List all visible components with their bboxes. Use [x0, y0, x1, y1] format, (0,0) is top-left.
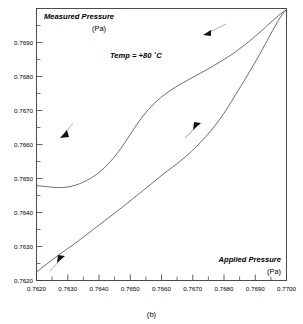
arrow-lower-left: [50, 255, 65, 271]
y-tick-label: 0.7660: [14, 141, 33, 148]
x-tick-label: 0.7620: [27, 285, 46, 292]
plot-frame: [37, 9, 287, 281]
x-axis-unit: (Pa): [267, 267, 281, 276]
y-tick-label: 0.7680: [14, 73, 33, 80]
y-tick-label: 0.7670: [14, 107, 33, 114]
y-axis-unit: (Pa): [92, 24, 106, 33]
y-tick-label: 0.7640: [14, 209, 33, 216]
arrow-upper-left: [60, 123, 73, 138]
x-axis-tick-labels: 0.7620 0.7630 0.7640 0.7650 0.7660 0.767…: [27, 285, 296, 292]
x-tick-label: 0.7630: [58, 285, 77, 292]
y-axis-title: Measured Pressure: [44, 12, 115, 21]
x-tick-label: 0.7640: [90, 285, 109, 292]
y-axis-tick-labels: 0.7620 0.7630 0.7640 0.7650 0.7660 0.767…: [14, 39, 33, 284]
x-tick-label: 0.7680: [215, 285, 234, 292]
figure-container: 0.7620 0.7630 0.7640 0.7650 0.7660 0.767…: [0, 0, 303, 324]
x-axis-ticks: [37, 275, 287, 281]
y-tick-label: 0.7630: [14, 243, 33, 250]
curve-unloading-branch: [37, 10, 287, 188]
y-tick-label: 0.7690: [14, 39, 33, 46]
x-tick-label: 0.7700: [277, 285, 296, 292]
figure-caption: (b): [147, 310, 157, 319]
x-tick-label: 0.7650: [121, 285, 140, 292]
arrow-lower-right: [185, 122, 201, 138]
arrow-upper-right: [203, 24, 226, 36]
curve-loading-branch: [37, 10, 287, 273]
x-tick-label: 0.7660: [152, 285, 171, 292]
x-tick-label: 0.7670: [183, 285, 202, 292]
temperature-annotation: Temp = +80 ˚C: [110, 51, 162, 60]
y-tick-label: 0.7620: [14, 277, 33, 284]
y-tick-label: 0.7650: [14, 175, 33, 182]
x-axis-title: Applied Pressure: [218, 255, 282, 264]
hysteresis-chart: 0.7620 0.7630 0.7640 0.7650 0.7660 0.767…: [0, 0, 303, 324]
y-axis-ticks: [37, 26, 43, 281]
x-tick-label: 0.7690: [246, 285, 265, 292]
